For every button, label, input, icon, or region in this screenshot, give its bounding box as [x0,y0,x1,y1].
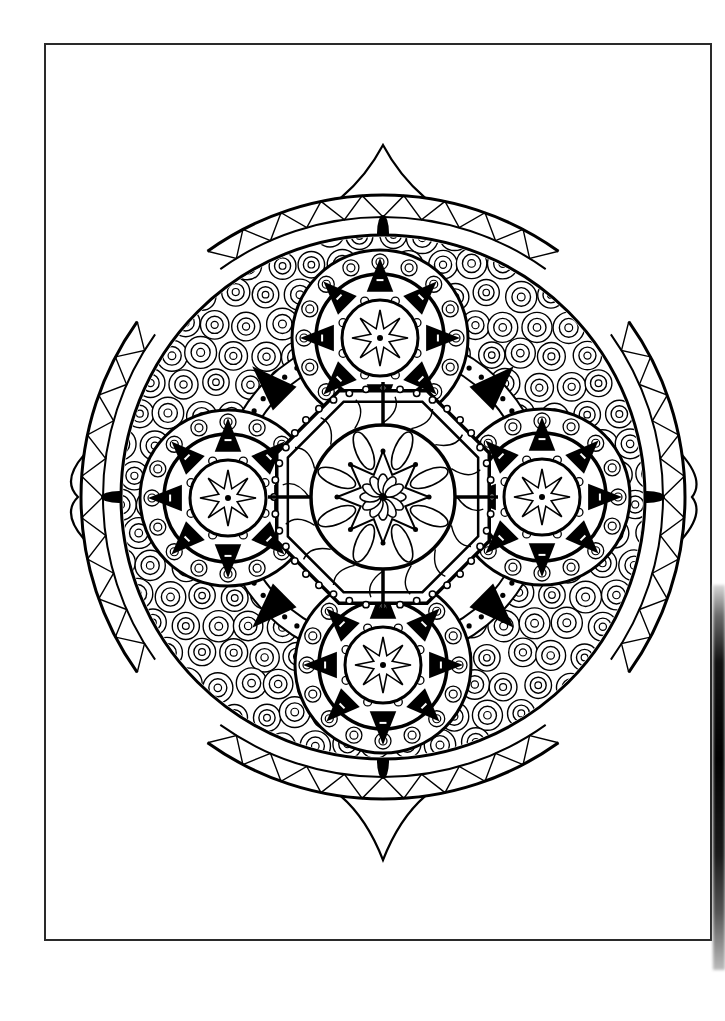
page-edge-shadow [713,585,725,970]
coloring-page [0,0,725,1021]
mandala-illustration [0,0,725,1021]
